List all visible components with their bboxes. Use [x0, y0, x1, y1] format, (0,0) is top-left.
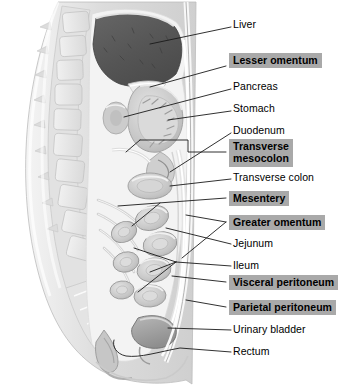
anatomy-figure: Liver Lesser omentum Pancreas Stomach Du…: [0, 0, 341, 385]
label-liver[interactable]: Liver: [233, 19, 256, 30]
label-column: Liver Lesser omentum Pancreas Stomach Du…: [0, 0, 341, 385]
label-parietal-peritoneum[interactable]: Parietal peritoneum: [229, 300, 336, 315]
label-pancreas[interactable]: Pancreas: [233, 81, 278, 92]
label-jejunum[interactable]: Jejunum: [233, 238, 273, 249]
label-mesentery[interactable]: Mesentery: [229, 191, 289, 206]
label-transverse-colon[interactable]: Transverse colon: [233, 172, 314, 183]
label-transverse-mesocolon[interactable]: Transverse mesocolon: [229, 139, 293, 167]
label-visceral-peritoneum[interactable]: Visceral peritoneum: [229, 275, 338, 290]
label-greater-omentum[interactable]: Greater omentum: [229, 215, 325, 230]
label-transverse-mesocolon-line2: mesocolon: [233, 153, 289, 165]
label-ileum[interactable]: Ileum: [233, 260, 259, 271]
label-stomach[interactable]: Stomach: [233, 103, 275, 114]
label-lesser-omentum[interactable]: Lesser omentum: [229, 53, 322, 68]
label-rectum[interactable]: Rectum: [233, 346, 269, 357]
label-urinary-bladder[interactable]: Urinary bladder: [233, 324, 306, 335]
label-duodenum[interactable]: Duodenum: [233, 125, 285, 136]
